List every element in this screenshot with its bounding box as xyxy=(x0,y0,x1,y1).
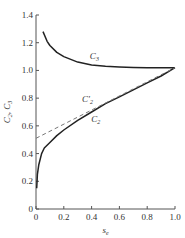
x-tick-label: 1.0 xyxy=(169,212,181,222)
series-cprime2 xyxy=(36,68,175,139)
y-tick-label: 0.8 xyxy=(22,93,34,103)
x-tick-label: 0.6 xyxy=(114,212,126,222)
x-tick-label: 0.8 xyxy=(142,212,154,222)
x-tick-label: 0 xyxy=(34,212,39,222)
line-chart: 00.20.40.60.81.000.20.40.60.81.01.21.4se… xyxy=(0,0,185,238)
chart-container: 00.20.40.60.81.000.20.40.60.81.01.21.4se… xyxy=(0,0,185,238)
series-label: C2 xyxy=(91,114,100,125)
y-tick-label: 1.0 xyxy=(22,65,34,75)
series-label: C3 xyxy=(90,51,99,62)
y-tick-label: 1.4 xyxy=(22,10,34,20)
y-tick-label: 0.6 xyxy=(22,121,34,131)
y-tick-label: 0 xyxy=(29,204,34,214)
x-axis-label: se xyxy=(102,225,109,236)
series-c3 xyxy=(43,32,175,68)
y-tick-label: 0.4 xyxy=(22,149,34,159)
y-tick-label: 1.2 xyxy=(22,38,33,48)
x-tick-label: 0.2 xyxy=(58,212,69,222)
y-axis-label: C2, C3 xyxy=(2,101,13,124)
series-label: C'2 xyxy=(82,94,93,105)
y-tick-label: 0.2 xyxy=(22,176,33,186)
x-tick-label: 0.4 xyxy=(86,212,98,222)
